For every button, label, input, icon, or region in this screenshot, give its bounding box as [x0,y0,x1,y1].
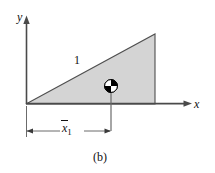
dimension-label: x1 [62,122,72,137]
centroid-marker-icon [105,80,118,93]
axis-arrow-up-icon [23,16,29,25]
dimension-arrow-right-icon [105,129,112,134]
figure-caption: (b) [93,151,107,163]
x-axis-label: x [194,98,199,110]
dimension-subscript: 1 [67,127,72,137]
y-axis-label: y [17,11,22,23]
hypotenuse-length-label: 1 [74,54,80,66]
figure-container: y x 1 x1 (b) [0,0,215,173]
triangle-shape [26,34,155,104]
dimension-symbol: x [62,122,67,134]
figure-drawing [0,0,215,173]
axis-arrow-right-icon [184,101,193,107]
dimension-arrow-left-icon [27,129,34,134]
